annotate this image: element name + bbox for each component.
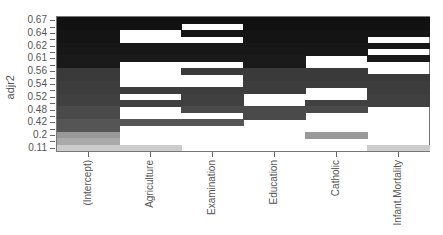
heatmap-cell <box>243 113 306 120</box>
x-tick-label: (Intercept) <box>82 160 93 206</box>
y-tick <box>50 39 55 40</box>
y-tick <box>50 58 55 59</box>
x-tick-label: Infant.Mortality <box>392 160 403 226</box>
heatmap-cell <box>181 106 244 113</box>
y-tick-label: 0.54 <box>28 79 47 89</box>
y-tick <box>50 27 55 28</box>
heatmap-cell <box>181 119 244 126</box>
y-tick-label: 0.56 <box>28 66 47 76</box>
heatmap-cell <box>119 100 182 107</box>
y-tick <box>50 78 55 79</box>
x-tick <box>150 152 151 157</box>
plot-area <box>56 16 430 152</box>
heatmap-cell <box>305 106 368 113</box>
heatmap-cell <box>305 49 368 56</box>
y-tick <box>50 103 55 104</box>
x-tick <box>88 152 89 157</box>
heatmap-cell <box>119 119 182 126</box>
heatmap-cell <box>119 23 182 30</box>
x-tick-label: Examination <box>206 160 217 215</box>
x-tick <box>398 152 399 157</box>
y-tick <box>50 97 55 98</box>
heatmap-cell <box>181 68 244 75</box>
heatmap-cell <box>57 145 120 152</box>
y-tick-label: 0.67 <box>28 15 47 25</box>
y-tick-label: 0.64 <box>28 28 47 38</box>
y-tick <box>50 148 55 149</box>
heatmap-cell <box>119 55 182 62</box>
heatmap-cell <box>367 145 430 152</box>
heatmap-cell <box>305 81 368 88</box>
y-tick <box>50 52 55 53</box>
x-tick <box>212 152 213 157</box>
heatmap-cell <box>367 30 430 37</box>
y-tick-label: 0.61 <box>28 53 47 63</box>
y-tick <box>50 110 55 111</box>
y-tick <box>50 116 55 117</box>
y-tick <box>50 129 55 130</box>
y-tick-label: 0.11 <box>28 143 47 153</box>
y-tick <box>50 20 55 21</box>
y-tick-label: 0.48 <box>28 105 47 115</box>
heatmap-cell <box>305 132 368 139</box>
y-tick <box>50 46 55 47</box>
y-tick <box>50 65 55 66</box>
x-tick <box>274 152 275 157</box>
y-tick <box>50 33 55 34</box>
x-tick-label: Education <box>268 160 279 204</box>
x-tick-label: Catholic <box>330 160 341 196</box>
heatmap-cell <box>367 100 430 107</box>
y-tick <box>50 122 55 123</box>
y-tick-label: 0.2 <box>33 130 47 140</box>
y-tick-label: 0.52 <box>28 92 47 102</box>
heatmap-cell <box>119 145 182 152</box>
y-tick <box>50 71 55 72</box>
heatmap-cell <box>243 87 306 94</box>
y-tick <box>50 84 55 85</box>
y-tick <box>50 90 55 91</box>
y-axis-title: adjr2 <box>4 75 16 99</box>
heatmap-cell <box>119 87 182 94</box>
y-tick <box>50 141 55 142</box>
heatmap-cell <box>367 55 430 62</box>
heatmap-cell <box>367 43 430 50</box>
heatmap-cell <box>181 55 244 62</box>
y-tick-label: 0.42 <box>28 117 47 127</box>
y-tick-label: 0.62 <box>28 41 47 51</box>
y-tick <box>50 135 55 136</box>
heatmap-cell <box>181 17 244 24</box>
heatmap-cell <box>181 30 244 37</box>
x-tick <box>336 152 337 157</box>
x-tick-label: Agriculture <box>144 160 155 208</box>
